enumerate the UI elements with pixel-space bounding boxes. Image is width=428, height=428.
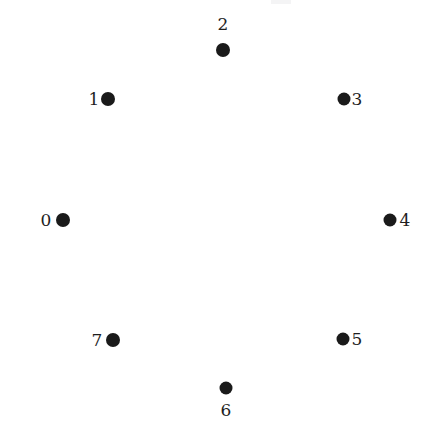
node-label: 0 bbox=[41, 212, 52, 229]
node-label: 4 bbox=[400, 212, 411, 229]
node-dot[interactable] bbox=[384, 214, 397, 227]
node-label: 2 bbox=[218, 16, 229, 33]
node-dot[interactable] bbox=[337, 333, 350, 346]
node-label: 6 bbox=[221, 402, 232, 419]
node-label: 5 bbox=[352, 331, 363, 348]
node-label: 1 bbox=[89, 91, 100, 108]
node-dot[interactable] bbox=[338, 93, 351, 106]
node-dot[interactable] bbox=[106, 333, 120, 347]
scan-artifact bbox=[271, 0, 291, 4]
node-dot[interactable] bbox=[101, 92, 115, 106]
node-dot[interactable] bbox=[220, 382, 233, 395]
node-dot[interactable] bbox=[216, 43, 230, 57]
node-dot[interactable] bbox=[56, 213, 70, 227]
node-label: 7 bbox=[92, 332, 103, 349]
diagram-canvas: 0 1 2 3 4 5 6 7 bbox=[0, 0, 428, 428]
node-label: 3 bbox=[352, 91, 363, 108]
